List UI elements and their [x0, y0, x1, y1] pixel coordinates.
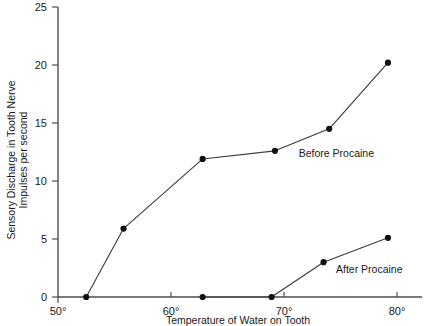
x-tick-label-50: 50° — [50, 305, 67, 317]
data-point — [320, 259, 326, 265]
data-point — [326, 126, 332, 132]
data-point — [83, 294, 89, 300]
data-point — [200, 156, 206, 162]
y-tick-label-15: 15 — [35, 117, 47, 129]
y-axis-ticks — [52, 7, 58, 297]
chart-canvas: 25 20 15 10 5 0 50° 60° 70° 80° Temperat… — [0, 0, 427, 326]
data-point — [200, 294, 206, 300]
chart-figure: 25 20 15 10 5 0 50° 60° 70° 80° Temperat… — [0, 0, 427, 326]
y-tick-label-25: 25 — [35, 1, 47, 13]
y-tick-label-5: 5 — [41, 233, 47, 245]
y-tick-label-0: 0 — [41, 291, 47, 303]
series-annotation-after-procaine: After Procaine — [336, 263, 403, 275]
data-point — [385, 60, 391, 66]
data-point — [385, 235, 391, 241]
y-axis-title-line2: Impulses per second — [17, 111, 29, 208]
y-tick-label-10: 10 — [35, 175, 47, 187]
y-tick-label-20: 20 — [35, 59, 47, 71]
series-annotation-before-procaine: Before Procaine — [299, 147, 374, 159]
data-point — [120, 225, 126, 231]
x-tick-label-80: 80° — [389, 305, 406, 317]
data-point — [268, 294, 274, 300]
x-axis-title: Temperature of Water on Tooth — [166, 314, 310, 326]
y-axis-title-line1: Sensory Discharge in Tooth Nerve — [5, 80, 17, 239]
data-point — [272, 148, 278, 154]
